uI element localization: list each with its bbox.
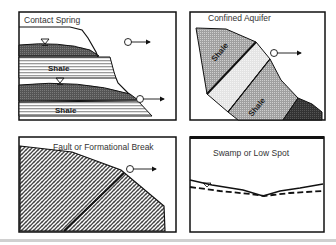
divider xyxy=(0,239,336,242)
panel-fault-break: Fault or Formational Break xyxy=(19,137,176,232)
panel-confined-aquifer: Confined Aquifer Shale Shale xyxy=(190,12,325,120)
lower-shale-layer xyxy=(19,101,152,116)
layer-label-shale-upper: Shale xyxy=(48,64,70,73)
panel-swamp: Swamp or Low Spot xyxy=(190,136,324,232)
panel-title-swamp: Swamp or Low Spot xyxy=(213,148,290,158)
spring-types-diagram: Contact Spring Shale Shale xyxy=(0,0,336,245)
panel-title-confined-aquifer: Confined Aquifer xyxy=(208,13,271,23)
panel-title-contact-spring: Contact Spring xyxy=(24,15,80,25)
layer-label-shale-lower: Shale xyxy=(55,106,77,115)
panel-title-fault-break: Fault or Formational Break xyxy=(53,142,154,152)
panel-contact-spring: Contact Spring Shale Shale xyxy=(19,12,176,120)
